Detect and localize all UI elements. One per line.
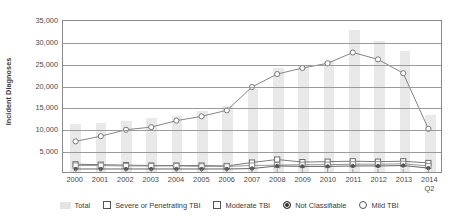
x-tick-label: 2014Q2: [421, 175, 437, 193]
x-tick-label: 2012: [370, 175, 386, 184]
gridline: [63, 152, 441, 153]
data-point-marker: [375, 57, 380, 62]
data-point-marker: [174, 118, 179, 123]
legend-label: Total: [75, 201, 91, 210]
legend-swatch-icon: [359, 201, 367, 209]
data-point-marker: [351, 164, 354, 167]
data-point-marker: [401, 71, 406, 76]
x-tick-label: 2005: [193, 175, 209, 184]
chart-legend: TotalSevere or Penetrating TBIModerate T…: [0, 196, 458, 214]
legend-item[interactable]: Total: [60, 201, 91, 210]
y-axis-tick-labels: 5,00010,00015,00020,00025,00030,00035,00…: [14, 0, 58, 217]
gridline: [63, 65, 441, 66]
x-tick-label: 2003: [142, 175, 158, 184]
data-point-marker: [149, 125, 154, 130]
data-point-marker: [402, 164, 405, 167]
legend-label: Moderate TBI: [225, 201, 270, 210]
gridline: [63, 87, 441, 88]
y-tick-label: 35,000: [35, 16, 58, 25]
y-tick-label: 30,000: [35, 37, 58, 46]
x-tick-label: 2013: [396, 175, 412, 184]
plot-area: [62, 20, 442, 173]
data-point-marker: [73, 139, 78, 144]
legend-item[interactable]: Moderate TBI: [213, 201, 270, 210]
x-tick-label: 2004: [168, 175, 184, 184]
legend-item[interactable]: Not Classifiable: [283, 201, 346, 210]
x-tick-label: 2001: [92, 175, 108, 184]
legend-item[interactable]: Severe or Penetrating TBI: [103, 201, 200, 210]
y-tick-label: 5,000: [40, 147, 59, 156]
legend-swatch-icon: [283, 201, 291, 209]
chart-container: Incident Diagnoses 5,00010,00015,00020,0…: [0, 0, 458, 217]
data-point-marker: [326, 165, 329, 168]
y-tick-label: 20,000: [35, 81, 58, 90]
x-tick-label: 2002: [117, 175, 133, 184]
data-point-marker: [350, 50, 355, 55]
legend-label: Not Classifiable: [295, 201, 346, 210]
x-tick-label: 2006: [218, 175, 234, 184]
data-point-marker: [199, 114, 204, 119]
data-point-marker: [98, 134, 103, 139]
data-point-marker: [300, 65, 305, 70]
x-tick-label: 2000: [66, 175, 82, 184]
y-tick-label: 25,000: [35, 59, 58, 68]
gridline: [63, 43, 441, 44]
legend-swatch-icon: [213, 201, 221, 209]
x-tick-label: 2010: [320, 175, 336, 184]
legend-item[interactable]: Mild TBI: [359, 201, 398, 210]
legend-label: Severe or Penetrating TBI: [115, 201, 200, 210]
x-tick-sublabel: Q2: [421, 184, 437, 193]
data-point-marker: [276, 164, 279, 167]
legend-label: Mild TBI: [371, 201, 398, 210]
data-point-marker: [376, 164, 379, 167]
x-tick-label: 2007: [244, 175, 260, 184]
legend-swatch-icon: [103, 201, 111, 209]
data-point-marker: [275, 157, 280, 162]
y-tick-label: 15,000: [35, 103, 58, 112]
gridline: [63, 130, 441, 131]
legend-swatch-icon: [60, 202, 71, 209]
data-point-marker: [301, 165, 304, 168]
data-point-marker: [275, 71, 280, 76]
x-tick-label: 2011: [345, 175, 361, 184]
x-tick-label: 2008: [269, 175, 285, 184]
y-tick-label: 10,000: [35, 125, 58, 134]
x-tick-label: 2009: [294, 175, 310, 184]
gridline: [63, 108, 441, 109]
